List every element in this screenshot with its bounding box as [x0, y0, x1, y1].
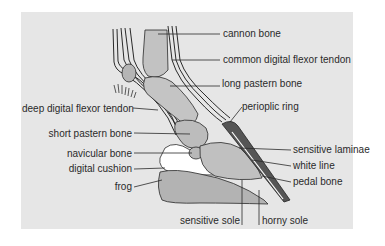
label-pedal-bone: pedal bone: [293, 176, 343, 188]
label-sensitive-laminae: sensitive laminae: [293, 144, 370, 156]
label-cannon-bone: cannon bone: [223, 28, 281, 40]
label-common-digital-flexor-tendon: common digital flexor tendon: [223, 54, 351, 66]
label-frog: frog: [22, 181, 132, 193]
hoof-illustration: [0, 0, 385, 246]
label-navicular-bone: navicular bone: [22, 148, 132, 160]
label-horny-sole: horny sole: [262, 215, 308, 227]
label-perioplic-ring: perioplic ring: [242, 101, 299, 113]
label-deep-digital-flexor-tendon: deep digital flexor tendon: [22, 103, 132, 115]
label-long-pastern-bone: long pastern bone: [222, 78, 302, 90]
label-short-pastern-bone: short pastern bone: [22, 128, 132, 140]
label-digital-cushion: digital cushion: [22, 163, 132, 175]
label-sensitive-sole: sensitive sole: [160, 215, 240, 227]
label-white-line: white line: [293, 160, 335, 172]
